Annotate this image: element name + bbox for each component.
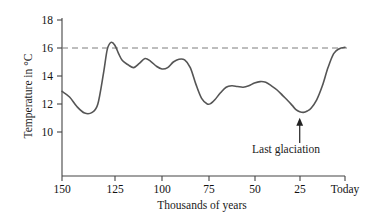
x-tick-label-75: 75 xyxy=(189,183,229,195)
y-axis-ticks xyxy=(57,20,62,132)
y-tick-label-12: 12 xyxy=(31,98,53,110)
y-tick-label-14: 14 xyxy=(31,70,53,82)
x-axis-title: Thousands of years xyxy=(62,199,342,211)
y-axis-title: Temperature in °C xyxy=(22,21,34,171)
last-glaciation-label: Last glaciation xyxy=(252,143,320,155)
x-axis-ticks xyxy=(62,176,345,181)
y-tick-label-18: 18 xyxy=(31,14,53,26)
x-tick-label-125: 125 xyxy=(95,183,135,195)
x-tick-label-150: 150 xyxy=(42,183,82,195)
x-tick-label-100: 100 xyxy=(142,183,182,195)
x-tick-label-today: Today xyxy=(325,183,365,195)
y-tick-label-10: 10 xyxy=(31,126,53,138)
last-glaciation-arrow xyxy=(296,118,303,143)
x-tick-label-25: 25 xyxy=(280,183,320,195)
x-tick-label-50: 50 xyxy=(235,183,275,195)
y-tick-label-16: 16 xyxy=(31,42,53,54)
temperature-curve xyxy=(62,42,345,113)
chart-figure: 18 16 14 12 10 150 125 100 75 50 25 Toda… xyxy=(0,0,371,222)
